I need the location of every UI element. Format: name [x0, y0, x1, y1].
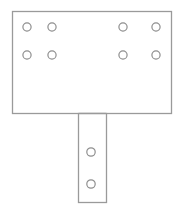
main-plate-group [13, 12, 172, 114]
plate-hole-top-right-2 [152, 23, 160, 31]
plate-hole-bottom-right-2 [152, 51, 160, 59]
plate-hole-top-left-2 [48, 23, 56, 31]
main-plate-outline [13, 12, 172, 114]
plate-hole-bottom-right-1 [119, 51, 127, 59]
drawing-viewport: Bracket Plate Outline Line drawing of a … [0, 0, 184, 213]
tab-hole-upper [87, 148, 95, 156]
plate-hole-top-right-1 [119, 23, 127, 31]
tab-hole-lower [87, 180, 95, 188]
plate-hole-bottom-left-2 [48, 51, 56, 59]
plate-hole-top-left-1 [23, 23, 31, 31]
vertical-tab-group [79, 114, 107, 203]
vertical-tab-outline [79, 114, 107, 203]
technical-drawing-canvas [0, 0, 184, 213]
plate-hole-bottom-left-1 [23, 51, 31, 59]
